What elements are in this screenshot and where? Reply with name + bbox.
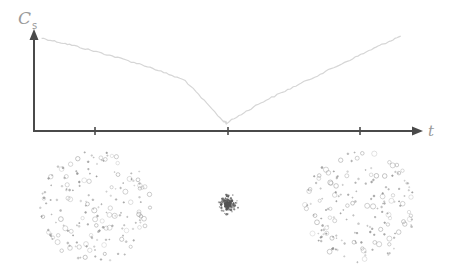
- series-group: [42, 36, 401, 124]
- particle: [337, 176, 338, 177]
- particle: [114, 155, 118, 159]
- particle: [387, 213, 388, 214]
- particle: [392, 175, 394, 177]
- particle: [221, 203, 222, 204]
- particle: [236, 200, 237, 201]
- particle: [346, 219, 347, 220]
- particle: [229, 205, 231, 207]
- particle: [110, 154, 113, 157]
- particle: [60, 249, 64, 253]
- particle: [142, 216, 147, 221]
- particle: [315, 220, 320, 225]
- particle: [313, 214, 314, 215]
- particle: [389, 252, 391, 254]
- particle: [76, 225, 77, 226]
- particle: [76, 157, 80, 161]
- particle: [338, 196, 339, 197]
- particle: [230, 197, 232, 199]
- particle: [93, 217, 98, 222]
- particle: [132, 228, 134, 230]
- particle: [100, 219, 104, 223]
- particle: [228, 194, 230, 196]
- particle: [88, 248, 92, 252]
- particle: [50, 235, 51, 236]
- particle: [222, 210, 224, 212]
- particle: [77, 245, 81, 249]
- particle: [341, 240, 342, 241]
- particle: [45, 203, 46, 204]
- particle: [66, 189, 68, 191]
- particle: [110, 195, 112, 197]
- particle: [340, 213, 341, 214]
- particle: [139, 196, 141, 198]
- particle: [227, 207, 229, 209]
- particle: [373, 234, 375, 236]
- particle: [221, 201, 223, 203]
- particle: [55, 240, 60, 245]
- particle: [115, 188, 116, 189]
- particle: [134, 185, 135, 186]
- particle: [98, 207, 99, 208]
- particle: [124, 225, 125, 226]
- particle: [100, 259, 102, 261]
- snapshot-condensed-middle: [218, 194, 239, 216]
- particle: [328, 216, 332, 220]
- particle: [133, 240, 135, 242]
- particle: [68, 197, 73, 202]
- particle: [101, 204, 102, 205]
- particle: [354, 232, 355, 233]
- particle: [395, 233, 396, 234]
- particle: [60, 210, 62, 212]
- particle: [327, 225, 328, 226]
- particle: [343, 209, 344, 210]
- particle: [120, 237, 124, 241]
- particle: [381, 211, 383, 213]
- particle: [371, 204, 376, 209]
- particle: [102, 243, 107, 248]
- particle: [374, 174, 379, 179]
- particle: [373, 241, 377, 245]
- particle: [128, 200, 133, 205]
- particle: [389, 198, 394, 203]
- particle: [78, 225, 80, 227]
- particle: [120, 212, 121, 213]
- particle: [342, 184, 343, 185]
- particle: [384, 222, 386, 224]
- particle: [388, 243, 391, 246]
- particle: [224, 206, 226, 208]
- particle: [107, 213, 112, 218]
- particle: [318, 199, 321, 202]
- particle: [411, 226, 413, 228]
- particle: [87, 179, 91, 183]
- particle: [140, 202, 141, 203]
- particle: [221, 210, 223, 212]
- particle: [103, 252, 106, 255]
- particle: [99, 156, 103, 160]
- particle: [55, 222, 56, 223]
- particle: [68, 162, 72, 166]
- particle: [393, 237, 395, 239]
- particle: [315, 182, 317, 184]
- particle: [105, 239, 107, 241]
- particle: [387, 253, 388, 254]
- particle: [140, 222, 141, 223]
- particle: [394, 201, 395, 202]
- particle: [384, 201, 385, 202]
- particle: [351, 160, 353, 162]
- particle: [93, 157, 94, 158]
- particle: [395, 171, 397, 173]
- particle: [377, 242, 382, 247]
- particle: [353, 215, 355, 217]
- particle: [354, 201, 356, 203]
- particle: [390, 163, 395, 168]
- particle: [56, 234, 60, 238]
- particle: [367, 225, 368, 226]
- particle: [235, 202, 237, 204]
- particle: [43, 197, 45, 199]
- particle: [384, 203, 386, 205]
- particle: [373, 195, 375, 197]
- particle: [310, 231, 315, 236]
- particle: [93, 246, 95, 248]
- particle: [335, 249, 336, 250]
- particle: [125, 241, 127, 243]
